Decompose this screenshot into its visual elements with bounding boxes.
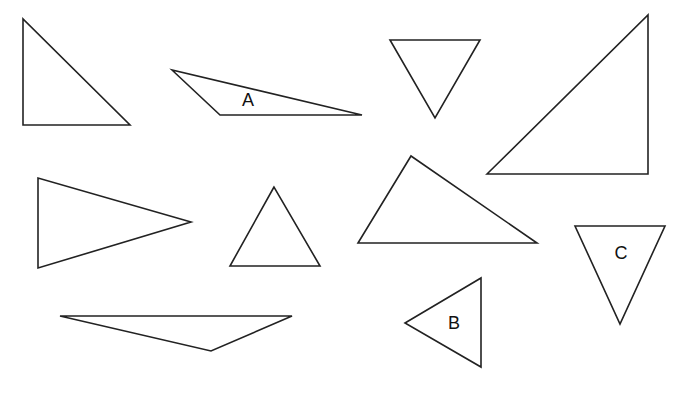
right-triangle-top-left [23, 19, 130, 125]
label-c: C [615, 243, 628, 263]
label-a: A [242, 90, 254, 110]
label-b: B [448, 313, 460, 333]
right-triangle-large [487, 15, 648, 174]
equilateral-triangle [230, 187, 320, 266]
triangle-b [405, 278, 481, 367]
flat-obtuse-triangle-bottom [60, 316, 292, 351]
triangles-canvas: A C B [0, 0, 689, 393]
inverted-triangle-c [575, 226, 665, 324]
obtuse-triangle-a [172, 70, 362, 115]
inverted-triangle-top [390, 40, 480, 118]
triangle-pointing-right [38, 178, 191, 268]
